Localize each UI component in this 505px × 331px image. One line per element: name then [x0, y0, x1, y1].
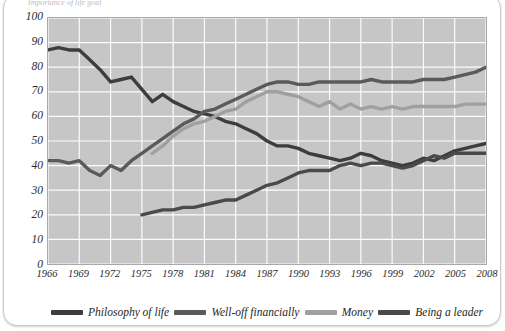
legend-label: Philosophy of life — [88, 306, 169, 318]
legend-swatch-icon — [174, 310, 206, 315]
chart-container: Importance of life goal 0102030405060708… — [0, 0, 505, 331]
x-axis-tick-label: 1966 — [37, 268, 58, 280]
x-axis-tick-label: 1993 — [319, 268, 340, 280]
x-axis-tick-label: 1996 — [351, 268, 372, 280]
x-axis-tick-label: 2008 — [477, 268, 498, 280]
x-axis-tick-label: 1999 — [382, 268, 403, 280]
y-axis-tick-label: 60 — [9, 110, 43, 121]
x-axis-tick-label: 2002 — [414, 268, 435, 280]
legend-swatch-icon — [305, 310, 337, 315]
y-axis-tick-label: 40 — [9, 160, 43, 171]
legend-label: Money — [342, 306, 373, 318]
x-axis-tick-label: 1990 — [288, 268, 309, 280]
legend-item[interactable]: Money — [305, 306, 373, 318]
x-axis-tick-label: 1981 — [194, 268, 215, 280]
x-axis-tick-label: 1978 — [162, 268, 183, 280]
legend-label: Well-off financially — [211, 306, 299, 318]
x-axis-tick-label: 1984 — [225, 268, 246, 280]
legend-item[interactable]: Being a leader — [378, 306, 483, 318]
legend-swatch-icon — [51, 310, 83, 315]
x-axis-tick-label: 1972 — [99, 268, 120, 280]
cropped-title-text: Importance of life goal — [28, 0, 228, 7]
x-axis-tick-label: 2005 — [445, 268, 466, 280]
y-axis-tick-label: 10 — [9, 234, 43, 245]
y-axis-tick-label: 50 — [9, 135, 43, 146]
y-axis-tick-label: 100 — [9, 11, 43, 22]
y-axis-tick-label: 20 — [9, 209, 43, 220]
legend-item[interactable]: Well-off financially — [174, 306, 299, 318]
legend-swatch-icon — [378, 310, 410, 315]
x-axis-labels: 1966196919721975197819811984198719901993… — [47, 268, 487, 282]
y-axis-tick-label: 80 — [9, 61, 43, 72]
x-axis-tick-label: 1975 — [131, 268, 152, 280]
chart-legend: Philosophy of lifeWell-off financiallyMo… — [47, 303, 487, 321]
plot-svg — [48, 18, 486, 264]
y-axis-labels: 0102030405060708090100 — [6, 17, 43, 265]
x-axis-tick-label: 1987 — [257, 268, 278, 280]
y-axis-tick-label: 30 — [9, 185, 43, 196]
legend-item[interactable]: Philosophy of life — [51, 306, 169, 318]
legend-label: Being a leader — [415, 306, 483, 318]
x-axis-tick-label: 1969 — [68, 268, 89, 280]
y-axis-tick-label: 70 — [9, 85, 43, 96]
plot-area — [47, 17, 487, 265]
y-axis-tick-label: 90 — [9, 36, 43, 47]
